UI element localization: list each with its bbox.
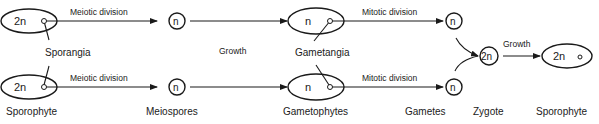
- gametes-label: Gametes: [405, 106, 446, 117]
- fusion-arrow-bottom: [455, 56, 478, 71]
- ploidy-label: 2n: [14, 15, 26, 27]
- arrow-label: Mitotic division: [362, 7, 418, 17]
- gametangium-dot: [328, 19, 333, 24]
- top-meiospore: n: [169, 13, 185, 29]
- life-cycle-diagram: 2n Meiotic division n n Mitotic division…: [0, 0, 599, 124]
- arrow-label: Mitotic division: [362, 73, 418, 83]
- ploidy-label: 2n: [14, 81, 26, 93]
- ploidy-label: n: [305, 81, 311, 93]
- ploidy-label: n: [450, 82, 456, 93]
- bottom-gamete: n: [446, 79, 462, 95]
- growth-label: Growth: [503, 39, 531, 49]
- growth-label: Growth: [219, 46, 247, 56]
- sporangia-label: Sporangia: [45, 47, 91, 58]
- sporophyte-label: Sporophyte: [6, 106, 58, 117]
- ploidy-label: n: [173, 16, 179, 27]
- bottom-sporophyte: 2n: [1, 66, 57, 99]
- top-sporophyte: 2n: [1, 9, 57, 40]
- ploidy-label: n: [305, 15, 311, 27]
- gametophytes-label: Gametophytes: [283, 106, 348, 117]
- sporangia-pointer: [44, 66, 49, 85]
- fusion-arrow-top: [456, 38, 478, 56]
- arrow-label: Meiotic division: [70, 73, 128, 83]
- gametangium-dot: [328, 85, 333, 90]
- gametangia-label: Gametangia: [295, 47, 350, 58]
- bottom-gametophyte: n: [288, 65, 344, 100]
- top-gamete: n: [446, 13, 462, 29]
- zygote-label: Zygote: [473, 106, 504, 117]
- sporophyte-ellipse: [542, 44, 592, 68]
- arrow-label: Meiotic division: [70, 7, 128, 17]
- meiospores-label: Meiospores: [146, 106, 198, 117]
- top-gametophyte: n: [288, 8, 344, 41]
- ploidy-label: n: [450, 16, 456, 27]
- new-sporophyte: 2n: [542, 44, 592, 68]
- gametangia-pointer: [314, 21, 330, 41]
- zygote: 2n: [480, 47, 498, 65]
- sporophyte-final-label: Sporophyte: [536, 106, 588, 117]
- sporangium-dot: [42, 19, 47, 24]
- ploidy-label: n: [173, 82, 179, 93]
- bottom-meiospore: n: [169, 79, 185, 95]
- sporangium-dot: [42, 85, 47, 90]
- sporangium-dot: [578, 55, 582, 59]
- ploidy-label: 2n: [481, 51, 492, 62]
- ploidy-label: 2n: [553, 50, 565, 62]
